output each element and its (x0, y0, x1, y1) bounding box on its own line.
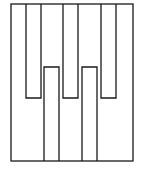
hanging-bar (26, 4, 41, 98)
outer-frame (11, 4, 133, 161)
interlocking-bars-diagram (0, 0, 145, 173)
hanging-bar (101, 4, 116, 98)
rising-bar (44, 67, 59, 161)
rising-bar (82, 67, 97, 161)
hanging-bar (63, 4, 78, 98)
